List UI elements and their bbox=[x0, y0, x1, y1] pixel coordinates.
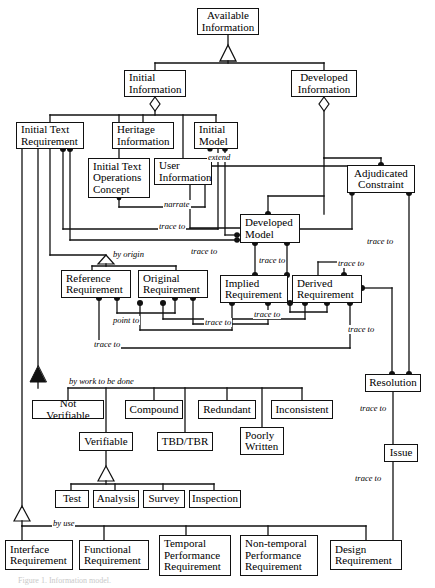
node-label: Design Requirement bbox=[335, 544, 392, 567]
node-label: Non-temporal Performance Requirement bbox=[245, 538, 307, 573]
node-tbd-tbr[interactable]: TBD/TBR bbox=[157, 432, 213, 451]
node-label: Original Requirement bbox=[143, 273, 200, 296]
node-derived-requirement[interactable]: Derived Requirement bbox=[292, 275, 362, 303]
edge-label-trace-to-derived-resolution: trace to bbox=[347, 325, 375, 334]
node-original-requirement[interactable]: Original Requirement bbox=[138, 270, 208, 298]
node-label: Functional Requirement bbox=[84, 544, 141, 567]
node-survey[interactable]: Survey bbox=[143, 490, 185, 508]
node-developed-information[interactable]: Developed Information bbox=[291, 70, 357, 97]
node-verifiable[interactable]: Verifiable bbox=[79, 432, 133, 451]
node-inconsistent[interactable]: Inconsistent bbox=[271, 400, 333, 419]
edge-label-narrate: narrate bbox=[163, 200, 191, 209]
edge-label-point-to: point to bbox=[112, 316, 140, 325]
edge-label-by-work-to-be-done: by work to be done bbox=[68, 377, 135, 386]
diagram-canvas: Available Information Initial Informatio… bbox=[0, 0, 435, 588]
node-label: Implied Requirement bbox=[225, 278, 282, 301]
edge-label-by-use: by use bbox=[52, 519, 75, 528]
edge-label-extend: extend bbox=[207, 153, 231, 162]
node-label: Resolution bbox=[369, 377, 417, 389]
node-inspection[interactable]: Inspection bbox=[189, 490, 241, 508]
edge-label-trace-to-original: trace to bbox=[204, 318, 232, 327]
node-label: Redundant bbox=[203, 404, 251, 416]
node-available-information[interactable]: Available Information bbox=[197, 8, 259, 35]
node-label: Inconsistent bbox=[275, 404, 328, 416]
node-label: Analysis bbox=[97, 493, 136, 505]
edge-label-trace-to-developed-model: trace to bbox=[190, 247, 218, 256]
node-resolution[interactable]: Resolution bbox=[365, 374, 421, 392]
node-interface-requirement[interactable]: Interface Requirement bbox=[5, 540, 73, 570]
node-redundant[interactable]: Redundant bbox=[198, 400, 256, 419]
node-label: User Information bbox=[159, 160, 212, 183]
node-label: Available Information bbox=[202, 10, 255, 33]
node-user-information[interactable]: User Information bbox=[154, 158, 212, 185]
edge-label-by-origin: by origin bbox=[112, 250, 145, 259]
node-temporal-performance-requirement[interactable]: Temporal Performance Requirement bbox=[159, 535, 231, 576]
node-initial-information[interactable]: Initial Information bbox=[124, 70, 186, 97]
node-label: Adjudicated Constraint bbox=[354, 168, 408, 191]
node-compound[interactable]: Compound bbox=[125, 400, 183, 419]
node-label: Reference Requirement bbox=[66, 273, 123, 296]
node-label: Developed Model bbox=[245, 217, 293, 240]
node-adjudicated-constraint[interactable]: Adjudicated Constraint bbox=[347, 165, 415, 193]
node-implied-requirement[interactable]: Implied Requirement bbox=[220, 275, 288, 303]
node-label: Poorly Written bbox=[245, 430, 278, 453]
node-label: Initial Text Requirement bbox=[21, 124, 78, 147]
edge-label-trace-to-derived: trace to bbox=[337, 259, 365, 268]
node-analysis[interactable]: Analysis bbox=[93, 490, 139, 508]
edge-label-trace-to-adjudicated: trace to bbox=[366, 237, 394, 246]
node-label: Not Verifiable bbox=[37, 398, 99, 421]
node-reference-requirement[interactable]: Reference Requirement bbox=[61, 270, 131, 298]
node-initial-model[interactable]: Initial Model bbox=[194, 122, 238, 149]
node-label: Developed Information bbox=[298, 72, 351, 95]
node-developed-model[interactable]: Developed Model bbox=[240, 214, 300, 243]
edge-label-trace-to-resolution-issue: trace to bbox=[359, 404, 387, 413]
edge-label-trace-to-reference: trace to bbox=[93, 340, 121, 349]
node-test[interactable]: Test bbox=[55, 490, 89, 508]
node-label: Issue bbox=[390, 447, 413, 459]
node-poorly-written[interactable]: Poorly Written bbox=[240, 427, 284, 455]
node-not-verifiable[interactable]: Not Verifiable bbox=[32, 400, 104, 419]
node-design-requirement[interactable]: Design Requirement bbox=[330, 540, 402, 570]
node-label: Verifiable bbox=[84, 436, 127, 448]
node-initial-text-operations-concept[interactable]: Initial Text Operations Concept bbox=[88, 158, 150, 198]
node-functional-requirement[interactable]: Functional Requirement bbox=[79, 540, 149, 570]
node-non-temporal-performance-requirement[interactable]: Non-temporal Performance Requirement bbox=[240, 535, 318, 576]
node-label: TBD/TBR bbox=[162, 436, 208, 448]
node-label: Inspection bbox=[192, 493, 238, 505]
node-label: Derived Requirement bbox=[297, 278, 354, 301]
node-label: Survey bbox=[148, 493, 179, 505]
edge-label-trace-to-initial-text-ops: trace to bbox=[158, 222, 186, 231]
node-label: Initial Text Operations Concept bbox=[93, 161, 141, 196]
node-label: Test bbox=[63, 493, 81, 505]
figure-caption: Figure 1. Information model. bbox=[18, 576, 111, 585]
node-label: Heritage Information bbox=[117, 124, 170, 147]
node-label: Initial Information bbox=[129, 72, 182, 95]
edge-label-trace-to-implied: trace to bbox=[258, 256, 286, 265]
edge-label-trace-to-issue-design: trace to bbox=[354, 474, 382, 483]
edge-label-trace-to-implied-lower: trace to bbox=[253, 310, 281, 319]
node-issue[interactable]: Issue bbox=[384, 444, 418, 462]
node-initial-text-requirement[interactable]: Initial Text Requirement bbox=[16, 122, 84, 149]
node-label: Compound bbox=[130, 404, 179, 416]
node-heritage-information[interactable]: Heritage Information bbox=[112, 122, 174, 149]
node-label: Interface Requirement bbox=[10, 544, 67, 567]
node-label: Temporal Performance Requirement bbox=[164, 538, 221, 573]
node-label: Initial Model bbox=[199, 124, 228, 147]
